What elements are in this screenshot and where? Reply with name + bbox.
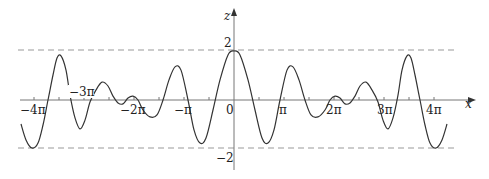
x-tick-label: −3π bbox=[69, 85, 95, 99]
x-axis-label: x bbox=[465, 97, 472, 111]
z-axis-label: z bbox=[223, 9, 231, 23]
x-tick-label: 3π bbox=[377, 103, 393, 117]
z-min-label: −2 bbox=[216, 151, 234, 165]
z-max-label: 2 bbox=[224, 36, 232, 50]
x-tick-label: −2π bbox=[120, 103, 146, 117]
x-tick-label: −4π bbox=[20, 103, 46, 117]
x-tick-labels: −4π−3π−2π−π0π2π3π4π bbox=[20, 85, 442, 117]
x-tick-label: π bbox=[279, 103, 287, 117]
function-plot: x z 2 −2 −4π−3π−2π−π0π2π3π4π bbox=[0, 0, 489, 179]
x-tick-label: −π bbox=[174, 103, 192, 117]
x-tick-label: 0 bbox=[226, 103, 234, 117]
z-axis-arrow-icon bbox=[231, 8, 237, 16]
x-tick-label: 2π bbox=[326, 103, 342, 117]
x-tick-label: 4π bbox=[426, 103, 442, 117]
